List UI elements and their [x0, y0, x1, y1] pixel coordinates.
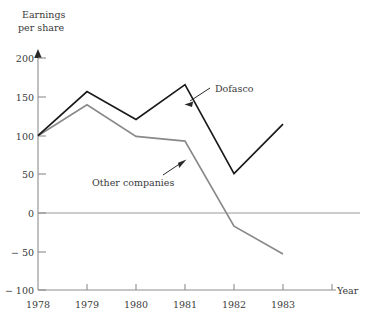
y-tick-label-4: 0: [28, 208, 34, 219]
y-tick-label-0: 200: [16, 53, 34, 64]
annotation-arrow-head-other-companies-icon: [178, 160, 187, 168]
y-axis-title-line1: Earnings: [22, 9, 65, 20]
y-tick-label-3: 50: [22, 169, 34, 180]
annotation-arrow-head-dofasco-icon: [185, 102, 194, 107]
y-tick-label-2: 100: [16, 131, 34, 142]
y-axis-title-line2: per share: [18, 22, 64, 33]
series-line-dofasco: [38, 85, 283, 174]
annotation-leader-dofasco: [190, 88, 210, 101]
earnings-per-share-line-chart: Earnings per share 200 150 100 50 0 − 50…: [0, 0, 365, 328]
annotation-label-other-companies: Other companies: [92, 177, 174, 188]
annotation-leader-other-companies: [163, 163, 181, 175]
y-tick-label-5: − 50: [11, 247, 34, 258]
y-axis-arrow-head-icon: [34, 49, 42, 58]
x-tick-label-2: 1980: [124, 299, 148, 310]
x-tick-label-4: 1982: [222, 299, 246, 310]
x-axis-title: Year: [336, 285, 359, 296]
y-tick-label-1: 150: [16, 92, 34, 103]
x-tick-label-3: 1981: [173, 299, 197, 310]
y-tick-label-6: − 100: [5, 285, 34, 296]
x-tick-label-1: 1979: [75, 299, 99, 310]
annotation-label-dofasco: Dofasco: [215, 83, 254, 94]
x-tick-label-5: 1983: [271, 299, 295, 310]
chart-page: Earnings per share 200 150 100 50 0 − 50…: [0, 0, 365, 328]
x-tick-label-0: 1978: [26, 299, 50, 310]
